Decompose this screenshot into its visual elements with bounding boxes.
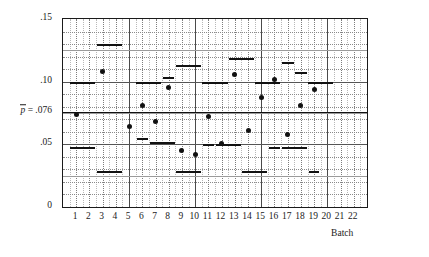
gridline-vertical-major bbox=[261, 19, 262, 207]
gridline-vertical-minor bbox=[274, 19, 275, 207]
center-line-pbar bbox=[63, 112, 367, 113]
gridline-vertical-minor bbox=[156, 19, 157, 207]
gridline-horizontal-mid bbox=[63, 176, 367, 177]
gridline-vertical-minor bbox=[208, 19, 209, 207]
gridline-vertical-minor bbox=[222, 19, 223, 207]
gridline-vertical-minor bbox=[142, 19, 143, 207]
center-line-value-text: = .076 bbox=[25, 105, 52, 115]
y-axis-tick-label: .05 bbox=[40, 139, 52, 149]
control-limit-segment bbox=[282, 62, 294, 64]
control-limit-segment bbox=[229, 58, 254, 60]
control-limit-segment bbox=[163, 77, 174, 79]
x-axis-tick-label: 21 bbox=[335, 212, 345, 222]
gridline-vertical-minor bbox=[314, 19, 315, 207]
gridline-horizontal-minor bbox=[63, 194, 367, 195]
control-limit-segment bbox=[203, 144, 214, 146]
data-point bbox=[179, 148, 184, 153]
control-limit-segment bbox=[295, 72, 307, 74]
data-point bbox=[272, 77, 277, 82]
control-limit-segment bbox=[70, 82, 95, 84]
control-limit-segment bbox=[282, 147, 307, 149]
data-point bbox=[298, 103, 303, 108]
data-point bbox=[206, 114, 211, 119]
data-point bbox=[285, 132, 290, 137]
gridline-vertical-cell bbox=[281, 19, 282, 207]
control-limit-segment bbox=[70, 147, 95, 149]
gridline-vertical-minor bbox=[354, 19, 355, 207]
x-axis-tick-label: 10 bbox=[189, 212, 199, 222]
gridline-vertical-minor bbox=[248, 19, 249, 207]
data-point bbox=[219, 141, 224, 146]
x-axis-tick-label: 14 bbox=[242, 212, 252, 222]
control-limit-segment bbox=[176, 65, 201, 67]
gridline-vertical-minor bbox=[182, 19, 183, 207]
gridline-vertical-cell bbox=[96, 19, 97, 207]
x-axis-tick-label: 5 bbox=[126, 212, 131, 222]
center-line-label: p = .076 bbox=[21, 106, 52, 116]
gridline-vertical-cell bbox=[162, 19, 163, 207]
gridline-horizontal-minor bbox=[63, 32, 367, 33]
chart-figure: 0.05.10.15p = .076 Batch 123456789101112… bbox=[0, 0, 429, 257]
data-point bbox=[153, 119, 158, 124]
gridline-vertical-cell bbox=[175, 19, 176, 207]
x-axis-title: Batch bbox=[331, 228, 353, 238]
gridline-horizontal-minor bbox=[63, 132, 367, 133]
gridline-vertical-cell bbox=[215, 19, 216, 207]
control-limit-segment bbox=[97, 44, 122, 46]
gridline-vertical-minor bbox=[116, 19, 117, 207]
data-point bbox=[259, 95, 264, 100]
x-axis-tick-label: 4 bbox=[112, 212, 117, 222]
y-axis-labels: 0.05.10.15p = .076 bbox=[0, 18, 58, 208]
x-axis-tick-label: 7 bbox=[152, 212, 157, 222]
data-point bbox=[127, 124, 132, 129]
gridline-vertical-cell bbox=[321, 19, 322, 207]
gridline-vertical-cell bbox=[241, 19, 242, 207]
gridline-vertical-cell bbox=[228, 19, 229, 207]
x-axis-tick-label: 2 bbox=[86, 212, 91, 222]
x-axis-tick-label: 17 bbox=[282, 212, 292, 222]
x-axis-tick-label: 3 bbox=[99, 212, 104, 222]
gridline-horizontal-minor bbox=[63, 57, 367, 58]
gridline-vertical-cell bbox=[334, 19, 335, 207]
gridline-vertical-cell bbox=[70, 19, 71, 207]
x-axis-tick-label: 19 bbox=[308, 212, 318, 222]
control-limit-segment bbox=[97, 171, 122, 173]
data-point bbox=[166, 85, 171, 90]
x-axis-tick-label: 11 bbox=[203, 212, 212, 222]
gridline-vertical-cell bbox=[122, 19, 123, 207]
gridline-vertical-cell bbox=[202, 19, 203, 207]
gridline-vertical-major bbox=[129, 19, 130, 207]
data-point bbox=[312, 87, 317, 92]
x-axis-tick-label: 8 bbox=[165, 212, 170, 222]
gridline-horizontal-minor bbox=[63, 157, 367, 158]
control-limit-segment bbox=[308, 82, 333, 84]
x-axis-tick-label: 1 bbox=[73, 212, 78, 222]
control-limit-segment bbox=[136, 82, 161, 84]
gridline-vertical-cell bbox=[268, 19, 269, 207]
control-limit-segment bbox=[150, 142, 175, 144]
gridline-vertical-cell bbox=[109, 19, 110, 207]
x-axis-tick-label: 15 bbox=[256, 212, 266, 222]
gridline-vertical-minor bbox=[235, 19, 236, 207]
control-limit-segment bbox=[242, 171, 267, 173]
control-limit-segment bbox=[176, 171, 201, 173]
gridline-horizontal-minor bbox=[63, 119, 367, 120]
control-limit-segment bbox=[255, 82, 280, 84]
plot-area bbox=[62, 18, 368, 208]
gridline-vertical-minor bbox=[89, 19, 90, 207]
y-axis-tick-label: .10 bbox=[40, 76, 52, 86]
gridline-vertical-cell bbox=[83, 19, 84, 207]
gridline-vertical-minor bbox=[169, 19, 170, 207]
gridline-vertical-cell bbox=[308, 19, 309, 207]
x-axis-tick-label: 18 bbox=[295, 212, 305, 222]
control-limit-segment bbox=[309, 171, 320, 173]
control-limit-segment bbox=[202, 82, 227, 84]
x-axis-tick-label: 12 bbox=[216, 212, 226, 222]
y-axis-tick-label: 0 bbox=[47, 201, 52, 211]
data-point bbox=[193, 152, 198, 157]
x-axis-tick-label: 9 bbox=[179, 212, 184, 222]
gridline-vertical-minor bbox=[301, 19, 302, 207]
gridline-vertical-major bbox=[327, 19, 328, 207]
data-point bbox=[246, 128, 251, 133]
data-point bbox=[74, 112, 79, 117]
